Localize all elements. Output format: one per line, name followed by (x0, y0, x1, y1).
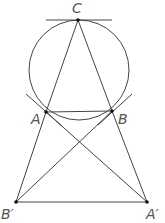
point-b-prime (14, 200, 18, 204)
geometry-diagram: C A B B′ A′ (0, 0, 165, 223)
segment-ca (46, 20, 78, 112)
label-a: A (30, 111, 41, 127)
label-a-prime: A′ (145, 206, 160, 222)
point-c (76, 18, 80, 22)
point-a-prime (145, 200, 149, 204)
point-b (110, 109, 114, 113)
label-c: C (72, 0, 82, 16)
point-a (44, 110, 48, 114)
segment-ab (46, 111, 112, 112)
segment-cb (78, 20, 112, 111)
circumcircle (29, 20, 129, 120)
label-b: B (118, 111, 128, 127)
label-b-prime: B′ (1, 206, 15, 222)
